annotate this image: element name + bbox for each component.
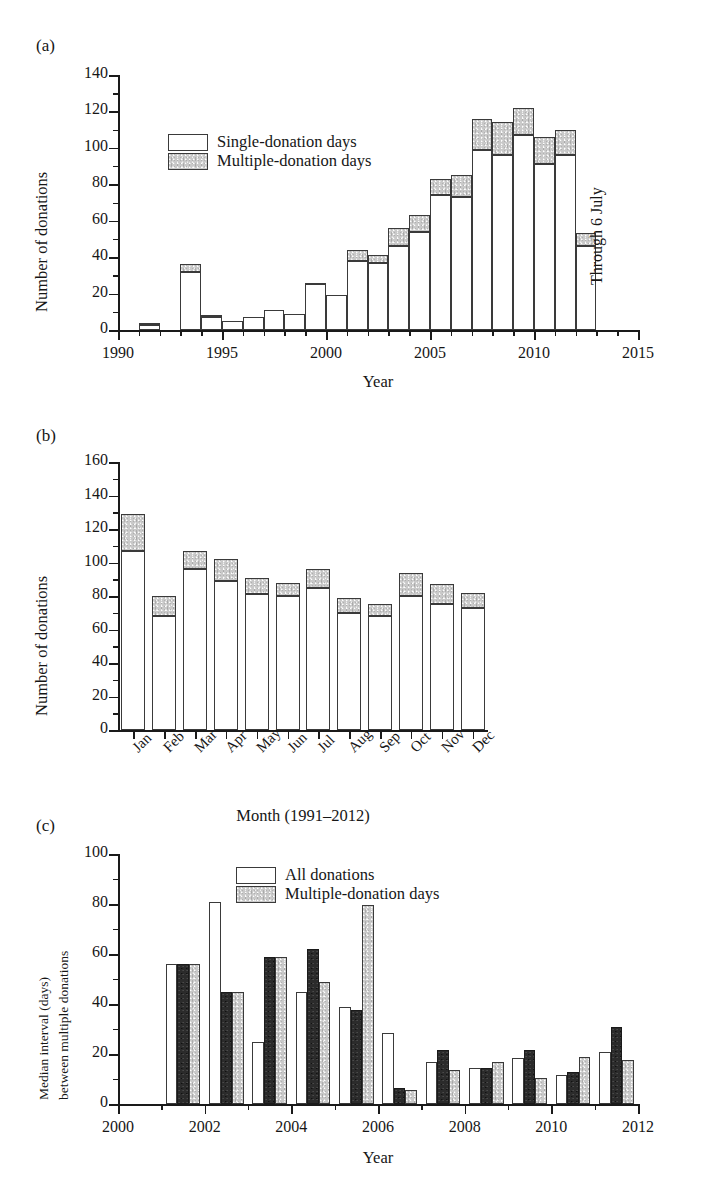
y-tick-label: 60 — [60, 619, 108, 637]
y-tick-minor — [113, 275, 118, 276]
panel-c-plot-area: 0204060801002000200220042006200820102012 — [0, 794, 707, 1204]
bar-single-donation-days — [513, 135, 534, 330]
panel-b-y-axis-title: Number of donations — [32, 576, 52, 716]
y-tick-minor — [113, 1079, 118, 1080]
bar-single-donation-days — [284, 314, 305, 330]
x-tick-major — [638, 1104, 640, 1114]
y-tick-major — [109, 496, 118, 498]
bar-design-criteria-met — [611, 1027, 623, 1105]
y-tick-major — [109, 854, 118, 856]
panel-b: (b) 020406080100120140160JanFebMarAprMay… — [0, 404, 707, 794]
x-tick-minor — [161, 1104, 162, 1110]
x-tick-minor — [472, 330, 473, 336]
y-tick-label: 20 — [60, 686, 108, 704]
bar-multiple-donation-days — [492, 122, 513, 155]
bar-single-donation-days — [326, 295, 347, 330]
bar-multiple-donation-days — [461, 593, 485, 608]
bar-multiple-donation-days — [183, 551, 207, 569]
panel-c: (c) 020406080100200020022004200620082010… — [0, 794, 707, 1204]
x-tick-minor — [243, 330, 244, 336]
panel-a-legend-entry: Single-donation days — [168, 133, 371, 151]
y-tick-minor — [113, 680, 118, 681]
y-tick-minor — [113, 929, 118, 930]
bar-multiple-donation-days — [305, 283, 326, 285]
x-tick-minor — [617, 330, 618, 336]
bar-single-donation-days — [388, 246, 409, 330]
bar-all-multiple-donations — [296, 992, 308, 1105]
y-tick-minor — [113, 130, 118, 131]
x-tick-minor — [555, 330, 556, 336]
panel-c-y-axis-title-line1: Median interval (days) — [36, 977, 52, 1100]
y-tick-label: 140 — [60, 485, 108, 503]
x-tick-minor — [492, 330, 493, 336]
x-tick-minor — [248, 1104, 249, 1110]
bar-design-criteria-met — [307, 949, 319, 1104]
x-tick-major — [205, 1104, 207, 1114]
y-tick-label: 100 — [60, 843, 108, 861]
y-tick-major — [109, 257, 118, 259]
x-tick-minor — [180, 330, 181, 336]
bar-all-donations — [121, 551, 145, 730]
y-tick-major — [109, 1104, 118, 1106]
bar-all-multiple-donations — [599, 1052, 611, 1105]
x-tick-major — [465, 1104, 467, 1114]
x-tick-label: 2012 — [604, 1118, 672, 1136]
x-tick-major — [118, 1104, 120, 1114]
bar-single-donation-days — [305, 284, 326, 330]
bar-multiple-donation-days — [201, 315, 222, 317]
y-tick-major — [109, 294, 118, 296]
bar-multiple-donation-days — [152, 596, 176, 616]
bar-multiple-donation-days — [388, 228, 409, 246]
x-tick-major — [222, 330, 224, 340]
bar-multiple-donation-days — [368, 255, 389, 262]
bar-all-donations — [399, 596, 423, 730]
y-tick-minor — [113, 203, 118, 204]
x-tick-minor — [508, 1104, 509, 1110]
bar-single-donation-days — [222, 321, 243, 330]
bar-all-donations — [461, 608, 485, 730]
bar-multiple-donation-days — [472, 119, 493, 150]
panel-a-legend-entry: Multiple-donation days — [168, 152, 371, 170]
bar-all-donations — [245, 594, 269, 730]
y-tick-major — [109, 75, 118, 77]
x-tick-major — [118, 330, 120, 340]
x-tick-label: 2002 — [171, 1118, 239, 1136]
bar-design-criteria-relaxed — [492, 1062, 504, 1105]
y-tick-label: 80 — [60, 893, 108, 911]
y-tick-label: 140 — [60, 64, 108, 82]
y-axis-line — [118, 462, 120, 731]
y-tick-label: 60 — [60, 210, 108, 228]
y-tick-label: 120 — [60, 100, 108, 118]
y-tick-label: 160 — [60, 451, 108, 469]
bar-design-criteria-relaxed — [535, 1078, 547, 1104]
x-tick-label: 2006 — [344, 1118, 412, 1136]
bar-all-donations — [183, 569, 207, 730]
x-axis-line — [118, 330, 638, 332]
x-tick-label: 2010 — [500, 344, 568, 362]
y-tick-minor — [113, 979, 118, 980]
x-tick-label: 2004 — [257, 1118, 325, 1136]
y-tick-label: 100 — [60, 552, 108, 570]
bar-design-criteria-relaxed — [362, 905, 374, 1104]
y-tick-major — [109, 1004, 118, 1006]
y-tick-major — [109, 730, 118, 732]
bar-multiple-donation-days — [430, 179, 451, 195]
x-tick-minor — [264, 330, 265, 336]
x-tick-minor — [201, 330, 202, 336]
bar-multiple-donation-days — [451, 175, 472, 197]
y-tick-minor — [113, 879, 118, 880]
x-tick-minor — [409, 330, 410, 336]
y-tick-minor — [113, 512, 118, 513]
y-tick-major — [109, 148, 118, 150]
bar-design-criteria-met — [221, 992, 233, 1105]
bar-multiple-donation-days — [534, 137, 555, 164]
bar-all-donations — [152, 616, 176, 730]
y-tick-minor — [113, 312, 118, 313]
bar-all-multiple-donations — [252, 1042, 264, 1105]
panel-a-annotation: Through 6 July — [588, 187, 606, 285]
bar-design-criteria-met — [394, 1088, 406, 1104]
bar-multiple-donation-days — [513, 108, 534, 135]
x-tick-minor — [451, 330, 452, 336]
y-tick-major — [109, 462, 118, 464]
bar-single-donation-days — [264, 310, 285, 330]
